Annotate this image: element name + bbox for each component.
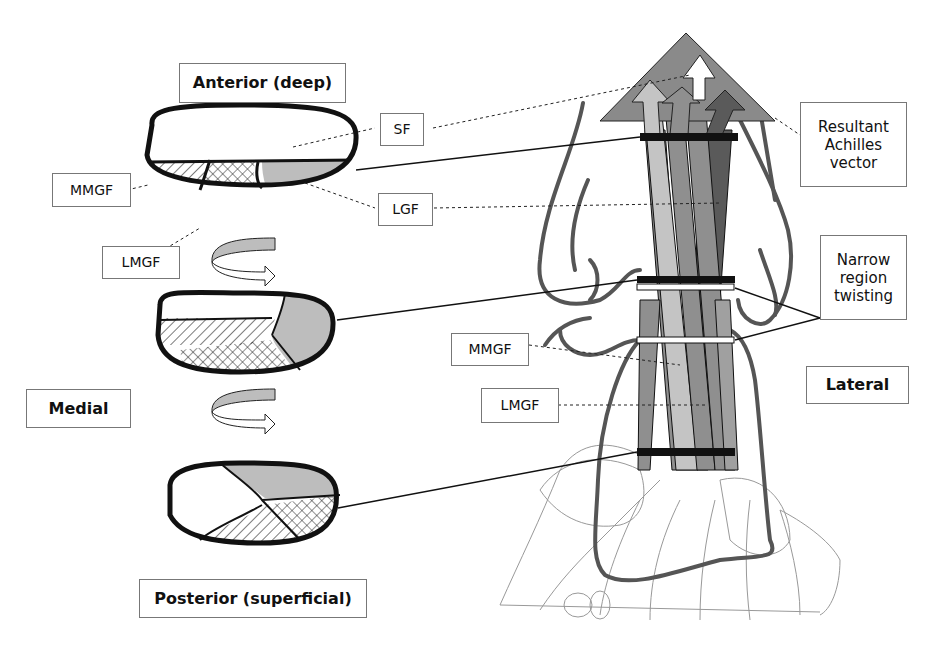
cross-section-middle bbox=[150, 285, 340, 380]
rotation-arrow-top bbox=[212, 238, 275, 286]
resultant-vector bbox=[600, 33, 775, 135]
label-mmgf-right: MMGF bbox=[451, 333, 529, 366]
label-lateral: Lateral bbox=[806, 366, 909, 404]
label-medial: Medial bbox=[26, 389, 131, 428]
label-posterior: Posterior (superficial) bbox=[139, 579, 367, 618]
achilles-diagram bbox=[0, 0, 938, 646]
cross-section-bottom bbox=[160, 455, 350, 550]
label-anterior: Anterior (deep) bbox=[179, 63, 346, 103]
label-mmgf-left: MMGF bbox=[52, 173, 131, 207]
label-lgf: LGF bbox=[378, 193, 433, 226]
label-lmgf-left: LMGF bbox=[102, 246, 180, 279]
label-resultant: Resultant Achilles vector bbox=[800, 102, 907, 187]
label-lmgf-right: LMGF bbox=[481, 388, 559, 423]
cross-section-top bbox=[140, 100, 370, 200]
rotation-arrow-bottom bbox=[212, 389, 275, 434]
label-narrow: Narrow region twisting bbox=[820, 235, 907, 320]
foot-bones bbox=[500, 445, 840, 620]
label-sf: SF bbox=[380, 113, 424, 146]
